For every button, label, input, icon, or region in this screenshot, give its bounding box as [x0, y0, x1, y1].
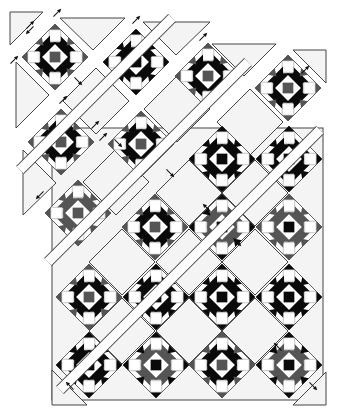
- quilt-diagram: Quilt assembly diagram (diagonal rows, e…: [0, 0, 340, 415]
- quilt-assembly-drawing: [0, 0, 340, 415]
